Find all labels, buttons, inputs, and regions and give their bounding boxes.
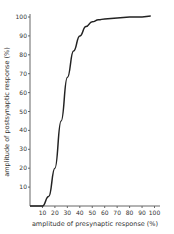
y-tick-label: 90 — [19, 32, 27, 39]
x-tick-label: 90 — [138, 209, 146, 216]
y-tick-label: 60 — [19, 89, 27, 96]
y-tick-label: 10 — [19, 183, 27, 190]
y-axis-label: amplitude of postsynaptic response (%) — [3, 47, 11, 177]
y-tick-label: 80 — [19, 51, 27, 58]
x-tick-label: 60 — [101, 209, 109, 216]
x-tick-label: 40 — [76, 209, 84, 216]
x-tick-label: 100 — [149, 209, 161, 216]
y-tick-label: 100 — [16, 13, 28, 20]
y-ticks: 102030405060708090100 — [16, 13, 30, 190]
y-tick-label: 40 — [19, 126, 27, 133]
data-curve — [30, 16, 151, 206]
line-chart: 102030405060708090100 102030405060708090… — [0, 0, 174, 234]
x-tick-label: 50 — [88, 209, 96, 216]
x-tick-label: 80 — [126, 209, 134, 216]
x-tick-label: 70 — [113, 209, 121, 216]
x-tick-label: 30 — [64, 209, 72, 216]
x-tick-label: 20 — [51, 209, 59, 216]
chart: 102030405060708090100 102030405060708090… — [0, 0, 174, 234]
y-tick-label: 70 — [19, 70, 27, 77]
x-tick-label: 10 — [39, 209, 47, 216]
x-axis-label: amplitude of presynaptic response (%) — [32, 220, 158, 228]
x-ticks: 102030405060708090100 — [39, 206, 161, 216]
y-tick-label: 50 — [19, 108, 27, 115]
y-tick-label: 20 — [19, 164, 27, 171]
y-tick-label: 30 — [19, 145, 27, 152]
